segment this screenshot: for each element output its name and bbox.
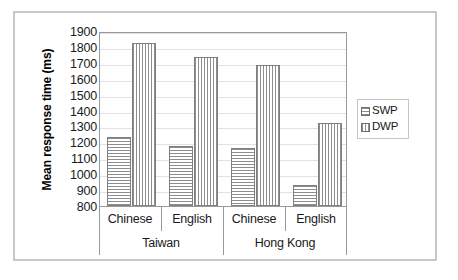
legend-label-dwp: DWP	[372, 121, 398, 133]
chart-figure: Mean response time (ms) 1900180017001600…	[0, 0, 458, 280]
y-axis-tick-label: 1200	[55, 137, 97, 150]
x-axis-group-label-0: Taiwan	[99, 231, 223, 255]
bars-layer	[100, 33, 346, 206]
x-axis-label-1: English	[161, 207, 223, 231]
x-axis-edge-separator-1	[346, 231, 347, 255]
y-axis-tick-label: 900	[55, 185, 97, 198]
x-axis-label-3: English	[285, 207, 347, 231]
plot-area	[99, 32, 347, 207]
legend-swatch-dwp	[361, 123, 370, 132]
y-axis-tick-label: 1400	[55, 105, 97, 118]
y-axis-tick-label: 1000	[55, 169, 97, 182]
x-axis-label-0: Chinese	[99, 207, 161, 231]
x-axis-label-2: Chinese	[223, 207, 285, 231]
x-axis-lang-edge-separator-1	[346, 207, 347, 231]
bar-hong-kong-chinese-swp	[231, 148, 255, 206]
legend-swatch-swp	[361, 107, 370, 116]
y-axis-tick-label: 800	[55, 201, 97, 214]
y-axis-tick-label: 1700	[55, 58, 97, 71]
x-axis-region-row: TaiwanHong Kong	[99, 231, 347, 255]
bar-taiwan-chinese-swp	[107, 137, 131, 206]
x-axis: ChineseEnglishChineseEnglish TaiwanHong …	[99, 207, 347, 255]
y-axis-tick-labels: 1900180017001600150014001300120011001000…	[55, 32, 97, 207]
y-axis-title: Mean response time (ms)	[38, 32, 56, 207]
y-axis-tick-label: 1900	[55, 26, 97, 39]
y-axis-tick-label: 1500	[55, 89, 97, 102]
x-axis-lang-edge-separator-0	[99, 207, 100, 231]
bar-taiwan-english-swp	[169, 146, 193, 206]
bar-hong-kong-english-swp	[293, 185, 317, 206]
bar-taiwan-english-dwp	[194, 57, 218, 206]
legend-label-swp: SWP	[372, 105, 398, 117]
x-axis-edge-separator-0	[99, 231, 100, 255]
legend-item-swp: SWP	[361, 103, 405, 119]
x-axis-group-label-1: Hong Kong	[223, 231, 347, 255]
y-axis-tick-label: 1100	[55, 153, 97, 166]
bar-hong-kong-english-dwp	[318, 123, 342, 206]
y-axis-tick-label: 1800	[55, 42, 97, 55]
bar-hong-kong-chinese-dwp	[256, 65, 280, 206]
bar-taiwan-chinese-dwp	[132, 43, 156, 206]
legend-item-dwp: DWP	[361, 119, 405, 135]
x-axis-language-row: ChineseEnglishChineseEnglish	[99, 207, 347, 231]
y-axis-tick-label: 1600	[55, 73, 97, 86]
chart-legend: SWPDWP	[357, 99, 409, 139]
y-axis-tick-label: 1300	[55, 121, 97, 134]
